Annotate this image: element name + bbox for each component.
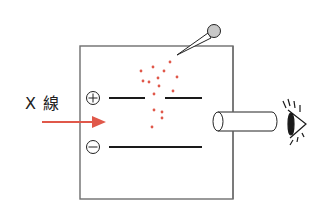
minus-icon	[87, 141, 100, 154]
oil-droplet	[153, 109, 156, 112]
xray-label: X 線	[25, 90, 60, 114]
oil-droplet	[163, 70, 166, 73]
xray-arrow-icon	[42, 116, 106, 128]
oil-droplet	[172, 90, 175, 93]
oil-droplet	[169, 61, 172, 64]
oil-droplet	[161, 117, 164, 120]
oil-droplet	[140, 70, 143, 73]
oil-droplet	[158, 85, 161, 88]
oil-droplet	[142, 80, 145, 83]
oil-droplet	[152, 66, 155, 69]
oil-droplet	[176, 76, 179, 79]
eye-icon	[283, 99, 306, 145]
oil-droplet	[157, 77, 160, 80]
oil-droplet	[161, 111, 164, 114]
oil-droplet	[153, 93, 156, 96]
plus-icon	[87, 92, 100, 105]
oil-droplet	[151, 126, 154, 129]
oil-droplet	[148, 81, 151, 84]
oil-droplets	[140, 61, 179, 129]
atomizer-icon	[177, 25, 221, 56]
millikan-diagram: X 線	[0, 0, 333, 213]
telescope-icon	[213, 112, 277, 131]
